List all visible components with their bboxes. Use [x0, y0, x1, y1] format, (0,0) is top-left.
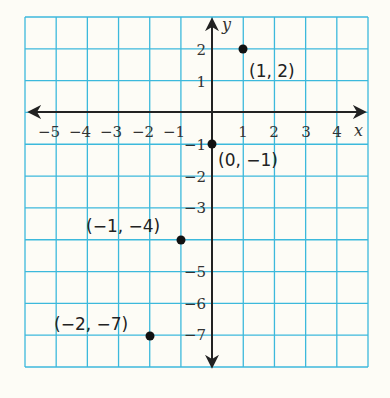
x-tick: −5 [38, 123, 60, 141]
y-tick: −3 [184, 199, 206, 217]
x-axis-label: x [354, 121, 363, 140]
coordinate-plane: x y −5 −4 −3 −2 −1 1 2 3 4 2 1 −1 −2 −3 … [0, 0, 390, 398]
y-axis-label: y [221, 15, 232, 34]
point-neg2-neg7 [146, 332, 155, 341]
point-label: (−1, −4) [86, 216, 160, 236]
point-label: (0, −1) [218, 150, 278, 170]
x-tick: −3 [100, 123, 122, 141]
point-neg1-neg4 [177, 236, 186, 245]
y-tick: −6 [184, 295, 206, 313]
y-tick: −5 [184, 263, 206, 281]
x-tick: −1 [163, 123, 185, 141]
x-tick: −4 [69, 123, 91, 141]
y-tick: −7 [184, 326, 206, 344]
x-tick: 3 [301, 123, 311, 141]
y-tick: 1 [196, 73, 206, 91]
point-0-neg1 [208, 140, 217, 149]
x-tick: 4 [332, 123, 342, 141]
point-label: (1, 2) [249, 61, 295, 81]
y-tick: −1 [184, 136, 206, 154]
x-tick: −2 [132, 123, 154, 141]
y-tick: 2 [196, 41, 206, 59]
y-tick-labels: 2 1 −1 −2 −3 −5 −6 −7 [184, 41, 206, 344]
y-tick: −2 [184, 168, 206, 186]
x-tick: 1 [238, 123, 248, 141]
x-tick: 2 [269, 123, 279, 141]
point-label: (−2, −7) [54, 314, 128, 334]
point-1-2 [239, 45, 248, 54]
